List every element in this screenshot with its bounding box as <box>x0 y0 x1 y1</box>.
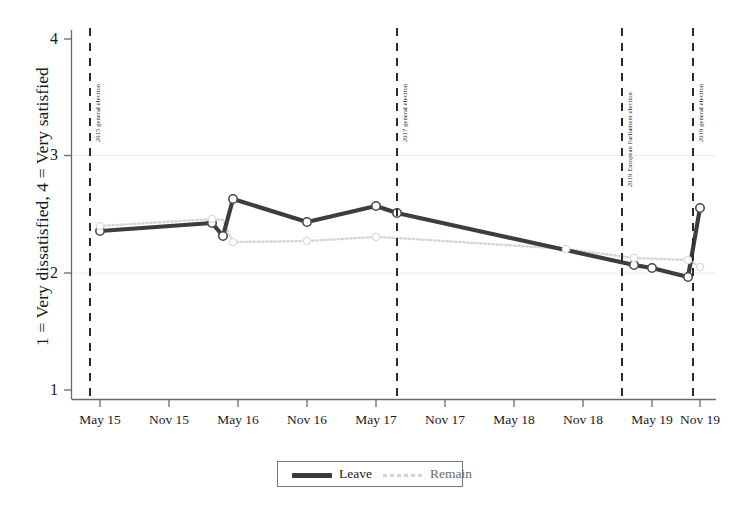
x-tick-label-nov-19: Nov 19 <box>657 412 741 428</box>
y-tick-label-4: 4 <box>34 30 58 48</box>
chart-legend: Leave Remain <box>277 461 463 487</box>
chart-page: 1 = Very dissatisfied, 4 = Very satisfie… <box>0 0 741 507</box>
plot-area: 1 = Very dissatisfied, 4 = Very satisfie… <box>0 0 741 507</box>
legend-swatch-leave <box>292 473 332 478</box>
legend-swatch-remain <box>383 474 423 477</box>
vline-label-2015-general-election: 2015 general election <box>94 84 101 142</box>
y-tick-label-3: 3 <box>34 146 58 164</box>
line-chart-svg <box>0 0 741 507</box>
vline-label-2019-european-parliament-election: 2019 European Parliament election <box>626 92 633 187</box>
legend-label-leave: Leave <box>339 466 372 482</box>
legend-label-remain: Remain <box>430 466 472 482</box>
y-tick-label-2: 2 <box>34 264 58 282</box>
vline-label-2019-general-election: 2019 general election <box>697 84 704 142</box>
vline-label-2017-general-election: 2017 general election <box>401 84 408 142</box>
y-axis-label: 1 = Very dissatisfied, 4 = Very satisfie… <box>32 7 53 407</box>
y-tick-label-1: 1 <box>34 381 58 399</box>
